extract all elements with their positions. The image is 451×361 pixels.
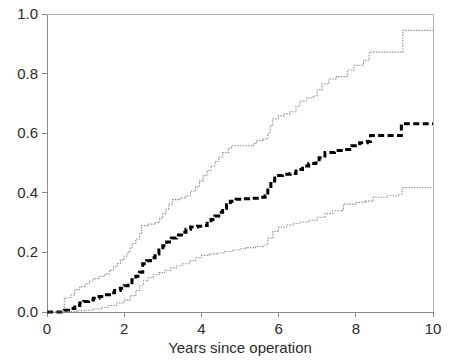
y-tick-label: 0.0	[17, 303, 38, 320]
y-tick-label: 0.4	[17, 184, 38, 201]
y-tick-label: 1.0	[17, 5, 38, 22]
x-tick-label: 4	[197, 320, 205, 337]
plot-canvas: 0246810 0.00.20.40.60.81.0 Years since o…	[0, 0, 451, 361]
figure-cumulative-incidence-plot: 0246810 0.00.20.40.60.81.0 Years since o…	[0, 0, 451, 361]
x-tick-label: 8	[352, 320, 360, 337]
x-tick-label: 0	[43, 320, 51, 337]
y-tick-label: 0.2	[17, 243, 38, 260]
x-tick-label: 6	[274, 320, 282, 337]
y-tick-label: 0.6	[17, 124, 38, 141]
y-tick-label: 0.8	[17, 65, 38, 82]
x-tick-label: 2	[120, 320, 128, 337]
plot-background	[0, 0, 451, 361]
x-tick-label: 10	[425, 320, 442, 337]
x-axis-title: Years since operation	[168, 339, 312, 356]
